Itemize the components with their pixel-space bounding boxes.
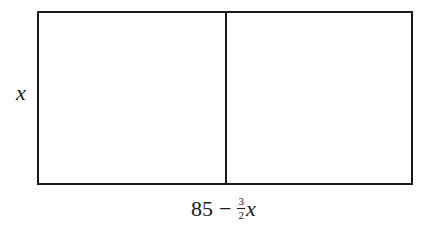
width-label: 85 − 3 2 x [191, 196, 256, 221]
width-variable: x [246, 198, 256, 220]
center-divider-line [225, 11, 227, 185]
width-constant: 85 [191, 198, 213, 220]
fraction-denominator: 2 [238, 209, 244, 221]
minus-sign: − [219, 198, 231, 220]
height-label: x [16, 82, 26, 104]
fraction: 3 2 [237, 196, 245, 221]
fraction-numerator: 3 [237, 196, 245, 209]
